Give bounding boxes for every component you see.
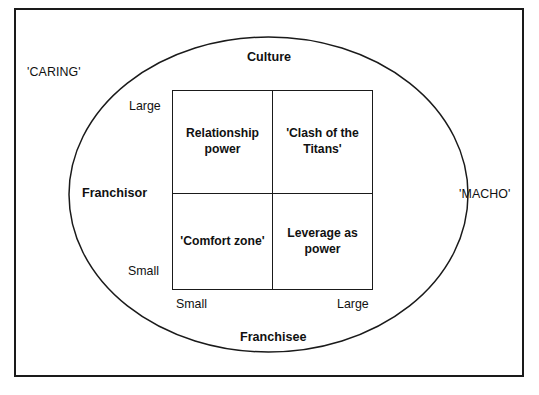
x-axis-high-label: Large: [337, 297, 369, 311]
label-caring: 'CARING': [27, 65, 81, 79]
label-franchisee: Franchisee: [240, 330, 307, 344]
x-axis-low-label: Small: [176, 297, 207, 311]
quadrant-matrix: Relationship power 'Clash of the Titans'…: [172, 90, 373, 290]
y-axis-high-label: Large: [129, 99, 161, 113]
y-axis-low-label: Small: [128, 264, 159, 278]
label-culture: Culture: [247, 50, 291, 64]
quadrant-bottom-right: Leverage as power: [273, 194, 372, 289]
quadrant-bottom-left: 'Comfort zone': [173, 194, 273, 289]
diagram-canvas: 'CARING' 'MACHO' Culture Franchisee Fran…: [0, 0, 539, 395]
quadrant-top-right: 'Clash of the Titans': [273, 91, 372, 194]
label-franchisor: Franchisor: [82, 186, 147, 200]
label-macho: 'MACHO': [459, 187, 511, 201]
quadrant-top-left: Relationship power: [173, 91, 273, 194]
